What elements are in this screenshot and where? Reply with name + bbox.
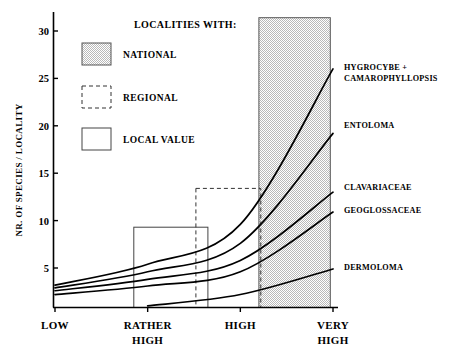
y-tick-label: 5 — [44, 263, 49, 274]
x-category-label: VERY — [317, 319, 349, 331]
y-tick-label: 15 — [39, 168, 50, 179]
series-label: ENTOLOMA — [344, 121, 395, 130]
series-label: GEOGLOSSACEAE — [344, 206, 422, 215]
series-label: CAMAROPHYLLOPSIS — [344, 74, 438, 83]
x-category-label: LOW — [41, 319, 69, 331]
y-tick-label: 25 — [39, 73, 50, 84]
x-category-label: RATHER — [124, 319, 173, 331]
legend-swatch-national — [82, 43, 111, 65]
legend-label-regional: REGIONAL — [123, 93, 178, 103]
national-box — [259, 18, 330, 308]
legend-title: LOCALITIES WITH: — [134, 19, 237, 30]
x-category-label: HIGH — [317, 334, 348, 346]
x-category-label: HIGH — [132, 334, 163, 346]
series-label: DERMOLOMA — [344, 263, 403, 272]
y-tick-label: 20 — [39, 121, 50, 132]
chart-svg: 51015202530 LOWRATHERHIGHHIGHVERYHIGH HY… — [0, 0, 458, 353]
series-label: CLAVARIACEAE — [344, 183, 412, 192]
x-category-label: HIGH — [225, 319, 256, 331]
y-tick-label: 10 — [39, 216, 50, 227]
series-label: HYGROCYBE + — [344, 63, 407, 72]
y-axis-title-text: NR. OF SPECIES / LOCALITY — [14, 103, 24, 236]
y-axis-title: NR. OF SPECIES / LOCALITY — [14, 103, 24, 236]
chart-figure: 51015202530 LOWRATHERHIGHHIGHVERYHIGH HY… — [0, 0, 458, 353]
y-tick-label: 30 — [39, 26, 50, 37]
chart-background — [0, 0, 458, 353]
legend-label-local: LOCAL VALUE — [123, 135, 195, 145]
legend-label-national: NATIONAL — [123, 50, 177, 60]
